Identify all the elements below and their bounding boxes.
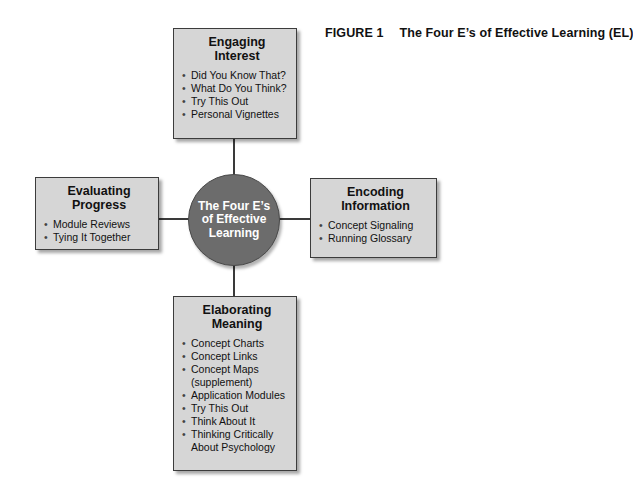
box-elaborating-meaning: Elaborating Meaning Concept Charts Conce… xyxy=(173,296,297,471)
list-item: Try This Out xyxy=(182,95,292,108)
list-item: Try This Out xyxy=(182,402,292,415)
item-list: Concept Signaling Running Glossary xyxy=(319,219,432,245)
list-item: Think About It xyxy=(182,415,292,428)
title-line: Evaluating xyxy=(44,184,154,198)
title-line: Meaning xyxy=(182,317,292,331)
list-item: Concept Charts xyxy=(182,337,292,350)
list-item: Module Reviews xyxy=(44,218,154,231)
title-line: Interest xyxy=(182,49,292,63)
connector-left xyxy=(158,218,189,220)
title-line: Elaborating xyxy=(182,303,292,317)
box-evaluating-progress: Evaluating Progress Module Reviews Tying… xyxy=(35,177,159,250)
list-item: Personal Vignettes xyxy=(182,108,292,121)
list-item: Concept Signaling xyxy=(319,219,432,232)
title-line: Engaging xyxy=(182,35,292,49)
connector-top xyxy=(233,138,235,175)
box-engaging-interest: Engaging Interest Did You Know That? Wha… xyxy=(173,28,297,139)
center-label: The Four E’s of Effective Learning xyxy=(194,200,274,241)
box-title: Elaborating Meaning xyxy=(182,303,292,331)
figure-number: FIGURE 1 xyxy=(325,26,383,40)
box-encoding-information: Encoding Information Concept Signaling R… xyxy=(310,178,437,258)
list-item: Tying It Together xyxy=(44,231,154,244)
center-circle: The Four E’s of Effective Learning xyxy=(188,174,280,266)
list-item: Running Glossary xyxy=(319,232,432,245)
box-title: Evaluating Progress xyxy=(44,184,154,212)
box-title: Encoding Information xyxy=(319,185,432,213)
list-item-continuation: (supplement) xyxy=(182,376,292,389)
list-item: What Do You Think? xyxy=(182,82,292,95)
list-item: Thinking Critically xyxy=(182,428,292,441)
connector-right xyxy=(279,218,311,220)
list-item: Application Modules xyxy=(182,389,292,402)
item-list: Did You Know That? What Do You Think? Tr… xyxy=(182,69,292,121)
title-line: Information xyxy=(319,199,432,213)
list-item: Concept Maps xyxy=(182,363,292,376)
box-title: Engaging Interest xyxy=(182,35,292,63)
connector-bottom xyxy=(233,265,235,297)
item-list: Concept Charts Concept Links Concept Map… xyxy=(182,337,292,454)
title-line: Encoding xyxy=(319,185,432,199)
list-item: Concept Links xyxy=(182,350,292,363)
list-item: Did You Know That? xyxy=(182,69,292,82)
figure-caption: FIGURE 1The Four E’s of Effective Learni… xyxy=(325,26,633,40)
figure-title: The Four E’s of Effective Learning (EL) xyxy=(399,26,633,40)
title-line: Progress xyxy=(44,198,154,212)
item-list: Module Reviews Tying It Together xyxy=(44,218,154,244)
list-item-continuation: About Psychology xyxy=(182,441,292,454)
